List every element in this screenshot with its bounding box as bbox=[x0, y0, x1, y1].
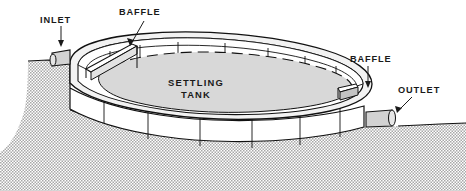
baffle-left-label: BAFFLE bbox=[119, 7, 161, 17]
settling-tank-label-line2: TANK bbox=[181, 89, 211, 100]
inlet-pipe bbox=[50, 50, 70, 66]
outlet-pipe bbox=[366, 110, 396, 127]
outlet-arrowhead bbox=[395, 106, 402, 113]
inlet-pipe-mouth bbox=[50, 54, 56, 66]
inlet-arrowhead bbox=[58, 40, 64, 47]
baffle-right-label: BAFFLE bbox=[350, 54, 392, 64]
diagram-canvas: INLET BAFFLE BAFFLE OUTLET SETTLING TANK bbox=[0, 0, 466, 191]
settling-tank-diagram: INLET BAFFLE BAFFLE OUTLET SETTLING TANK bbox=[0, 0, 466, 191]
inlet-label: INLET bbox=[40, 15, 71, 25]
settling-tank-label-line1: SETTLING bbox=[168, 77, 224, 88]
outlet-pipe-mouth bbox=[389, 110, 396, 126]
outlet-label: OUTLET bbox=[398, 85, 440, 95]
